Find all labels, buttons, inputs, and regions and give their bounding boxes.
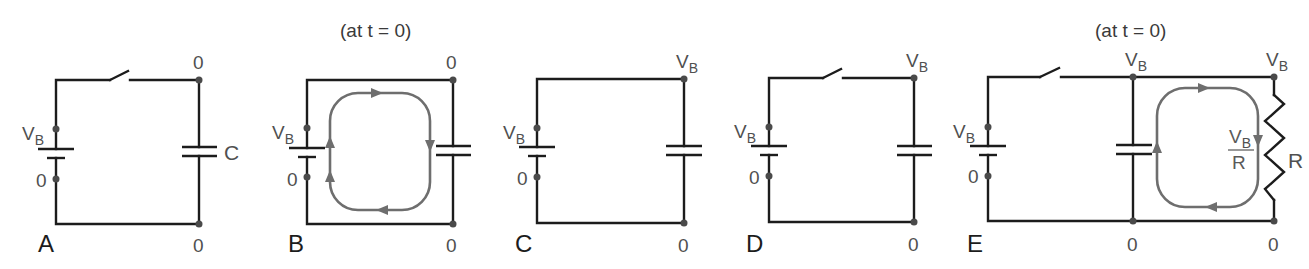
node-dot xyxy=(681,76,688,83)
rc-circuit-figure: VB 0 0 0 C A (at t = 0) xyxy=(0,0,1309,269)
panel-c: VB 0 VB 0 C xyxy=(503,51,702,257)
bottom-node-voltage-label: 0 xyxy=(908,234,919,255)
battery-top-voltage-label: VB xyxy=(22,123,44,148)
battery-top-voltage-label: VB xyxy=(272,122,294,147)
current-loop-clockwise-icon xyxy=(325,88,435,215)
node-dot xyxy=(681,220,688,227)
capacitor-icon xyxy=(182,147,217,156)
node-dot xyxy=(766,124,773,131)
node-dot xyxy=(1130,74,1137,81)
node-dot xyxy=(304,174,311,181)
node-dot xyxy=(1271,218,1278,225)
node-dot xyxy=(1271,74,1278,81)
battery-bottom-voltage-label: 0 xyxy=(749,167,760,188)
bottom-node-voltage-label: 0 xyxy=(446,235,457,256)
battery-top-voltage-label: VB xyxy=(734,121,756,146)
switch-open-icon xyxy=(823,69,841,78)
wires xyxy=(769,69,914,222)
bottom-node-voltage-label: 0 xyxy=(678,235,689,256)
node-dot xyxy=(450,221,457,228)
panel-label: A xyxy=(38,230,54,257)
panel-label: C xyxy=(515,230,532,257)
node-dot xyxy=(911,219,918,226)
switch-open-icon xyxy=(1040,68,1059,77)
node-dot xyxy=(911,75,918,82)
battery-bottom-voltage-label: 0 xyxy=(968,166,979,187)
node-dot xyxy=(985,173,992,180)
current-denominator: R xyxy=(1232,152,1246,173)
node-dot xyxy=(450,77,457,84)
top-node-voltage-label: 0 xyxy=(193,52,204,73)
battery-top-voltage-label: VB xyxy=(503,122,525,147)
bottom-node-voltage-label: 0 xyxy=(193,235,204,256)
resistor-icon xyxy=(1265,95,1284,200)
panel-label: D xyxy=(746,230,763,257)
node-dot xyxy=(53,126,60,133)
node-dot xyxy=(304,125,311,132)
capacitor-icon xyxy=(666,146,702,155)
node-dot xyxy=(1130,218,1137,225)
battery-icon xyxy=(289,148,325,157)
battery-icon xyxy=(38,149,74,158)
battery-icon xyxy=(751,146,787,155)
panel-d: VB 0 VB 0 D xyxy=(734,50,932,257)
battery-bottom-voltage-label: 0 xyxy=(287,169,298,190)
node-dot xyxy=(196,221,203,228)
panel-b: (at t = 0) VB 0 0 xyxy=(272,20,471,257)
panel-e: (at t = 0) xyxy=(953,20,1303,257)
current-value-fraction: VB R xyxy=(1228,126,1254,173)
wires xyxy=(56,71,199,224)
panel-a: VB 0 0 0 C A xyxy=(22,52,239,257)
current-numerator: VB xyxy=(1229,126,1251,151)
battery-bottom-voltage-label: 0 xyxy=(36,170,47,191)
res-top-node-voltage-label: VB xyxy=(1266,49,1288,74)
time-note: (at t = 0) xyxy=(1095,20,1166,41)
node-dot xyxy=(534,174,541,181)
top-node-voltage-label: VB xyxy=(676,51,698,76)
cap-bottom-node-voltage-label: 0 xyxy=(1127,234,1138,255)
time-note: (at t = 0) xyxy=(340,20,411,41)
panel-label: B xyxy=(288,230,304,257)
panel-label: E xyxy=(967,230,983,257)
battery-bottom-voltage-label: 0 xyxy=(517,168,528,189)
capacitor-icon xyxy=(897,146,932,155)
capacitor-label: C xyxy=(224,141,239,164)
battery-icon xyxy=(970,146,1006,155)
switch-open-icon xyxy=(110,71,128,80)
cap-top-node-voltage-label: VB xyxy=(1125,49,1147,74)
node-dot xyxy=(985,124,992,131)
capacitor-icon xyxy=(436,146,471,155)
res-bottom-node-voltage-label: 0 xyxy=(1268,234,1279,255)
wires xyxy=(537,79,684,223)
top-node-voltage-label: 0 xyxy=(446,52,457,73)
top-node-voltage-label: VB xyxy=(906,50,928,75)
resistor-label: R xyxy=(1288,149,1303,172)
battery-top-voltage-label: VB xyxy=(953,121,975,146)
node-dot xyxy=(766,173,773,180)
node-dot xyxy=(53,176,60,183)
capacitor-icon xyxy=(1116,145,1152,154)
battery-icon xyxy=(519,147,555,156)
node-dot xyxy=(196,77,203,84)
node-dot xyxy=(534,125,541,132)
